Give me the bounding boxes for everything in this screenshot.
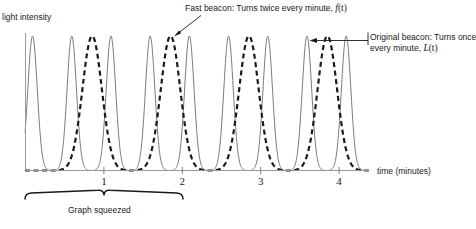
original-beacon-line2: every minute, — [370, 43, 421, 53]
x-tick-label: 1 — [94, 175, 114, 187]
fast-beacon-text: Fast beacon: Turns twice every minute, — [185, 3, 333, 13]
original-beacon-annotation: Original beacon: Turns once every minute… — [370, 32, 476, 54]
graph-squeezed-label: Graph squeezed — [68, 205, 131, 216]
beacon-intensity-figure: light intensity Fast beacon: Turns twice… — [0, 0, 476, 229]
fast-beacon-symbol-arg: (t) — [338, 3, 347, 13]
x-tick-label: 3 — [251, 175, 271, 187]
x-axis-label: time (minutes) — [377, 166, 431, 177]
fast-beacon-arrow — [174, 16, 201, 37]
original-beacon-symbol-arg: (t) — [429, 43, 438, 53]
original-beacon-arrow — [310, 33, 369, 46]
original-beacon-curve — [25, 36, 369, 171]
x-tick-label: 4 — [329, 175, 349, 187]
graph-squeezed-bracket — [25, 190, 183, 199]
fast-beacon-curve — [25, 36, 369, 171]
original-beacon-line1: Original beacon: Turns once — [370, 32, 476, 42]
fast-beacon-annotation: Fast beacon: Turns twice every minute, f… — [185, 3, 347, 14]
y-axis-label: light intensity — [2, 12, 51, 23]
curves-group — [25, 36, 369, 171]
x-tick-label: 2 — [172, 175, 192, 187]
